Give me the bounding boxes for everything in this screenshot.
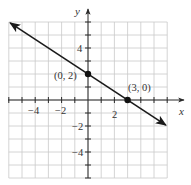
x-tick-label: −4 <box>28 105 40 116</box>
x-tick-label: 2 <box>112 109 117 120</box>
point-0-2 <box>85 71 91 77</box>
x-axis-label: x <box>178 105 184 117</box>
y-axis-label: y <box>74 5 80 17</box>
y-tick-label: 4 <box>77 43 83 54</box>
coordinate-plane: x y −4 −2 2 4 −2 −4 (0, 2) (3, 0) <box>0 0 191 185</box>
y-tick-label: −2 <box>72 121 83 132</box>
y-tick-label: −4 <box>72 147 84 158</box>
x-tick-label: −2 <box>55 105 66 116</box>
point-3-0 <box>124 97 130 103</box>
point-label-3-0: (3, 0) <box>128 82 151 94</box>
point-label-0-2: (0, 2) <box>54 70 77 82</box>
